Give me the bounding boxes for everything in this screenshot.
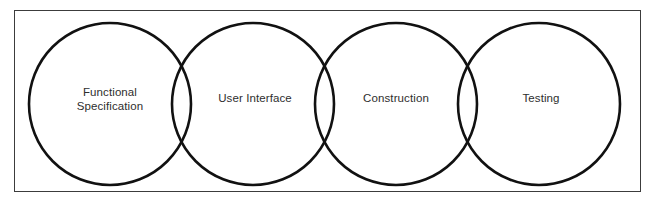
diagram-canvas: Functional Specification User Interface … bbox=[0, 0, 654, 205]
venn-circle-functional-specification[interactable] bbox=[29, 23, 191, 185]
venn-diagram bbox=[0, 0, 654, 205]
venn-circle-testing[interactable] bbox=[458, 23, 620, 185]
venn-circle-user-interface[interactable] bbox=[172, 23, 334, 185]
venn-circle-construction[interactable] bbox=[315, 23, 477, 185]
